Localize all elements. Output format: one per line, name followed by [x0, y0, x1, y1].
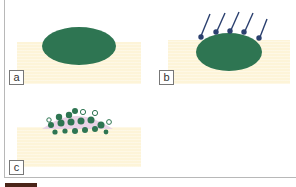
- panel-label-b: b: [159, 70, 174, 85]
- brown-tab: [5, 183, 37, 187]
- panel-label-c: c: [9, 160, 24, 175]
- panel-c: c: [5, 95, 151, 183]
- panel-b: b: [148, 0, 294, 88]
- particle-cluster-figure: [5, 95, 151, 183]
- panel-a: a: [5, 0, 151, 88]
- panel-label-a: a: [9, 70, 24, 85]
- ellipse-figure: [5, 0, 151, 88]
